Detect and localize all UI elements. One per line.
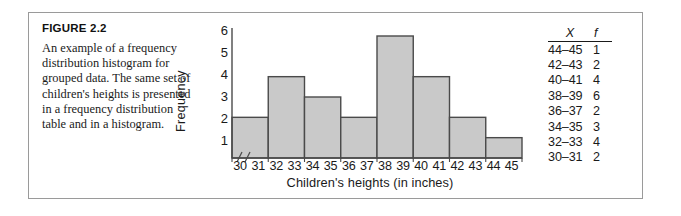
histogram-bar	[486, 138, 522, 158]
figure-caption: An example of a frequency distribution h…	[42, 41, 194, 132]
caption-block: FIGURE 2.2 An example of a frequency dis…	[42, 22, 194, 132]
cell-x-interval: 40–41	[548, 73, 592, 88]
y-axis-title: Frequency	[174, 46, 188, 156]
table-header: X f	[548, 26, 612, 42]
x-tick-label: 32	[267, 159, 285, 173]
x-tick-label: 33	[285, 159, 303, 173]
cell-x-interval: 38–39	[548, 88, 592, 103]
column-header-x: X	[548, 26, 592, 42]
cell-x-interval: 34–35	[548, 119, 592, 134]
x-tick-label: 37	[358, 159, 376, 173]
x-tick-label: 44	[485, 159, 503, 173]
x-tick-label: 41	[430, 159, 448, 173]
table-row: 36–372	[548, 104, 612, 119]
cell-x-interval: 32–33	[548, 134, 592, 149]
table-row: 32–334	[548, 134, 612, 149]
figure-container: FIGURE 2.2 An example of a frequency dis…	[0, 0, 681, 216]
cell-frequency: 3	[592, 119, 612, 134]
cell-frequency: 2	[592, 104, 612, 119]
table-row: 34–353	[548, 119, 612, 134]
cell-x-interval: 30–31	[548, 150, 592, 165]
x-tick-label: 39	[394, 159, 412, 173]
table-body: 44–45142–43240–41438–39636–37234–35332–3…	[548, 42, 612, 166]
cell-frequency: 6	[592, 88, 612, 103]
cell-frequency: 2	[592, 57, 612, 72]
x-tick-label: 43	[466, 159, 484, 173]
histogram-bar	[341, 117, 377, 158]
table-row: 44–451	[548, 42, 612, 58]
histogram-bar	[232, 117, 268, 158]
x-tick-label: 35	[322, 159, 340, 173]
cell-x-interval: 44–45	[548, 42, 592, 58]
frequency-table: X f 44–45142–43240–41438–39636–37234–353…	[548, 26, 628, 165]
x-tick-label: 40	[412, 159, 430, 173]
histogram-plot: Frequency 6 5 4 3 2 1 30 31	[196, 18, 526, 193]
cell-frequency: 4	[592, 73, 612, 88]
table-row: 42–432	[548, 57, 612, 72]
histogram-bar	[268, 77, 304, 158]
table-row: 38–396	[548, 88, 612, 103]
histogram-bar	[377, 36, 413, 158]
histogram-bar	[413, 77, 449, 158]
histogram-bar	[450, 117, 486, 158]
cell-x-interval: 36–37	[548, 104, 592, 119]
x-tick-label: 42	[448, 159, 466, 173]
x-axis-title: Children's heights (in inches)	[220, 175, 520, 190]
x-axis-tick-labels: 30 31 32 33 34 35 36 37 38 39 40 41 42 4…	[232, 159, 522, 175]
x-tick-label: 45	[503, 159, 521, 173]
x-tick-label: 36	[340, 159, 358, 173]
bars-group	[232, 36, 522, 158]
cell-frequency: 2	[592, 150, 612, 165]
histogram-bar	[305, 97, 341, 158]
x-tick-label: 34	[304, 159, 322, 173]
table-row: 30–312	[548, 150, 612, 165]
figure-title: FIGURE 2.2	[42, 22, 194, 34]
cell-frequency: 1	[592, 42, 612, 58]
column-header-f: f	[592, 26, 612, 42]
cell-frequency: 4	[592, 134, 612, 149]
table-row: 40–414	[548, 73, 612, 88]
table-header-row: X f	[548, 26, 612, 42]
x-tick-label: 30	[231, 159, 249, 173]
x-tick-label: 31	[249, 159, 267, 173]
cell-x-interval: 42–43	[548, 57, 592, 72]
x-tick-label: 38	[376, 159, 394, 173]
frequency-table-grid: X f 44–45142–43240–41438–39636–37234–353…	[548, 26, 612, 165]
